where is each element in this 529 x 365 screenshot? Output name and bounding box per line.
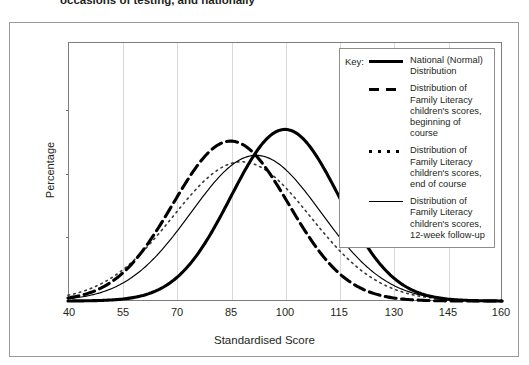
x-tick-label: 130 [385,306,403,318]
legend-item: National (Normal) Distribution [369,55,489,77]
legend-item-label: Distribution of Family Literacy children… [410,145,489,190]
legend-item-label: Distribution of Family Literacy children… [410,83,489,139]
legend-item: Distribution of Family Literacy children… [369,145,489,190]
x-axis-title: Standardised Score [0,334,529,346]
x-tick-label: 85 [225,306,237,318]
figure-caption: occasions of testing, and nationally [60,0,360,8]
x-tick-label: 145 [439,306,457,318]
x-tick-label: 160 [492,306,510,318]
line-dotted-icon [369,145,403,157]
line-solid-thin-icon [369,196,403,208]
legend-item: Distribution of Family Literacy children… [369,83,489,139]
x-tick-label: 55 [117,306,129,318]
legend-item: Distribution of Family Literacy children… [369,196,489,241]
legend-item-label: Distribution of Family Literacy children… [410,196,489,241]
legend-item-label: National (Normal) Distribution [410,55,489,77]
y-axis-title: Percentage [44,115,56,225]
x-tick-label: 70 [171,306,183,318]
x-tick-label: 100 [276,306,294,318]
legend-key-label: Key: [345,55,369,241]
line-dashed-icon [369,83,403,95]
x-tick-label: 115 [330,306,348,318]
line-solid-bold-icon [369,55,403,67]
x-tick-label: 40 [63,306,75,318]
chart-legend: Key: National (Normal) Distribution Dist… [339,48,495,248]
